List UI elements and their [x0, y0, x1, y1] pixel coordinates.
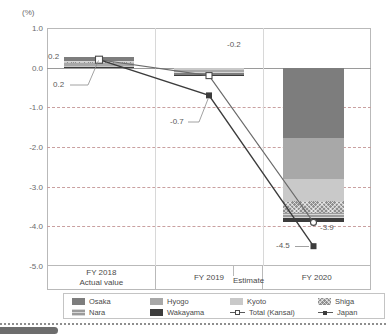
legend-label-japan: Japan [337, 308, 357, 317]
data-label-fy2020-total: -3.9 [320, 223, 334, 232]
footer-dotted-rule [0, 323, 386, 325]
leader--0.7 [188, 99, 208, 122]
data-label-fy2018-japan: 0.2 [53, 80, 64, 89]
legend-label-kyoto: Kyoto [247, 297, 266, 306]
legend-row-2: Nara Wakayama Total (Kansai) Japan [72, 307, 380, 318]
x-axis-sublabel-fy2018: Actual value [80, 278, 124, 288]
marker-japan-fy2019 [206, 92, 212, 98]
estimate-divider [233, 266, 234, 276]
legend-row-1: Osaka Hyogo Kyoto Shiga [72, 296, 380, 307]
legend-swatch-nara-icon [72, 309, 85, 316]
legend-swatch-hyogo-icon [150, 298, 163, 305]
x-axis: FY 2018 Actual value FY 2019 FY 2020 [47, 266, 371, 290]
x-axis-cell-fy2019: FY 2019 [155, 266, 263, 289]
legend-label-osaka: Osaka [89, 297, 111, 306]
marker-japan-fy2020 [311, 243, 317, 249]
line-total-kansai [99, 60, 314, 223]
legend-swatch-kyoto-icon [230, 298, 243, 305]
legend-label-shiga: Shiga [335, 297, 354, 306]
marker-total-kansai-fy2018 [96, 56, 103, 63]
legend-item-kyoto[interactable]: Kyoto [230, 297, 318, 306]
legend-item-japan[interactable]: Japan [318, 308, 357, 317]
legend-label-nara: Nara [89, 308, 105, 317]
x-axis-label-fy2019: FY 2019 [194, 273, 224, 283]
x-axis-cell-fy2020: FY 2020 [262, 266, 370, 289]
data-label-fy2019-japan: -0.7 [170, 117, 184, 126]
leader-0.2-japan [70, 61, 99, 86]
x-axis-cell-fy2018: FY 2018 Actual value [48, 266, 155, 289]
plot-area: (%) 1.0 0.0 -1.0 -2.0 -3.0 -4.0 -5.0 [0, 0, 386, 290]
x-axis-label-fy2020: FY 2020 [302, 273, 332, 283]
line-series-layer [0, 0, 386, 290]
legend-item-shiga[interactable]: Shiga [318, 297, 354, 306]
chart-figure: (%) 1.0 0.0 -1.0 -2.0 -3.0 -4.0 -5.0 [0, 0, 386, 334]
x-axis-label-fy2018: FY 2018 [86, 268, 116, 278]
legend-item-total-kansai[interactable]: Total (Kansai) [230, 308, 318, 317]
footer-tab-marker [0, 327, 58, 334]
legend-swatch-shiga-icon [318, 298, 331, 305]
data-label-fy2019-total: -0.2 [227, 40, 241, 49]
legend-item-osaka[interactable]: Osaka [72, 297, 150, 306]
data-label-fy2020-japan: -4.5 [276, 241, 290, 250]
data-label-fy2018-total: 0.2 [48, 52, 59, 61]
legend-item-hyogo[interactable]: Hyogo [150, 297, 230, 306]
chart-legend: Osaka Hyogo Kyoto Shiga Nara Wakaya [63, 293, 385, 319]
marker-total-kansai-fy2020 [311, 219, 317, 225]
legend-marker-filled-square-icon [318, 309, 333, 316]
legend-item-nara[interactable]: Nara [72, 308, 150, 317]
line-japan [99, 60, 314, 247]
legend-label-total-kansai: Total (Kansai) [249, 308, 295, 317]
legend-item-wakayama[interactable]: Wakayama [150, 308, 230, 317]
legend-swatch-wakayama-icon [150, 309, 163, 316]
legend-label-hyogo: Hyogo [167, 297, 189, 306]
legend-marker-open-square-icon [230, 309, 245, 316]
legend-swatch-osaka-icon [72, 298, 85, 305]
legend-label-wakayama: Wakayama [167, 308, 204, 317]
marker-total-kansai-fy2019 [206, 73, 212, 79]
